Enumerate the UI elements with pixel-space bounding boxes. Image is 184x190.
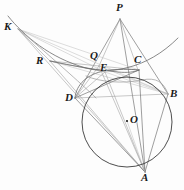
seg-E-A xyxy=(105,72,145,172)
arc-K-R-D-inner xyxy=(18,29,96,98)
point-label-r: R xyxy=(36,55,43,66)
point-label-p: P xyxy=(116,2,123,13)
point-dots-layer xyxy=(126,120,128,122)
geometry-figure: PKQCREDBOA xyxy=(0,0,184,190)
point-dot-o xyxy=(126,120,128,122)
seg-P-Q xyxy=(99,19,120,66)
arc-E-C-B-lower xyxy=(86,76,168,94)
point-label-k: K xyxy=(4,21,11,32)
point-label-a: A xyxy=(141,172,148,183)
point-label-o: O xyxy=(130,114,138,125)
seg-K-R xyxy=(18,29,50,61)
point-label-b: B xyxy=(170,88,177,99)
arc-K-R-E-C-right xyxy=(8,16,178,70)
point-label-c: C xyxy=(134,54,141,65)
point-label-d: D xyxy=(65,92,73,103)
seg-C-A xyxy=(139,70,145,172)
point-label-q: Q xyxy=(90,50,98,61)
point-label-e: E xyxy=(100,62,107,73)
geometry-canvas xyxy=(0,0,184,190)
seg-E-B xyxy=(105,72,168,94)
seg-B-A xyxy=(145,94,168,172)
